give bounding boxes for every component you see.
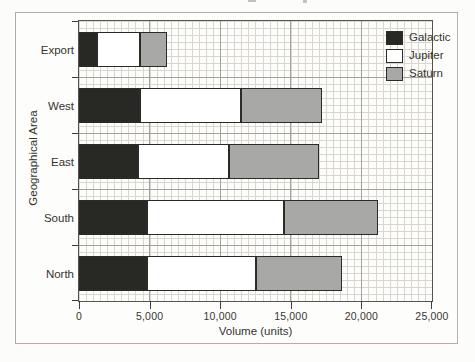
- legend-item-saturn: Saturn: [386, 66, 451, 81]
- x-axis-tick: [291, 301, 292, 309]
- legend-label: Jupiter: [409, 48, 444, 63]
- x-axis-tick: [150, 301, 151, 309]
- page: Geographical Area 05,00010,00015,00020,0…: [0, 0, 475, 362]
- major-gridline-vertical: [361, 21, 362, 301]
- bar-segment-galactic: [79, 88, 140, 123]
- x-axis-tick: [220, 301, 221, 309]
- legend-item-jupiter: Jupiter: [386, 48, 451, 63]
- bar-segment-galactic: [79, 144, 138, 179]
- y-category-label: South: [14, 210, 74, 226]
- y-category-label: West: [14, 98, 74, 114]
- y-category-label: Export: [14, 42, 74, 58]
- y-axis-tick: [72, 189, 78, 190]
- x-axis-tick: [431, 301, 432, 309]
- bar-segment-galactic: [79, 200, 147, 235]
- x-axis-title: Volume (units): [78, 325, 433, 337]
- y-axis-tick: [72, 133, 78, 134]
- bar-segment-saturn: [256, 256, 341, 291]
- legend-item-galactic: Galactic: [386, 30, 451, 45]
- legend-swatch-saturn: [386, 67, 403, 81]
- bar-segment-galactic: [79, 256, 147, 291]
- y-axis-tick: [72, 300, 78, 301]
- chart-plot-area: 05,00010,00015,00020,00025,000: [78, 20, 433, 302]
- x-tick-label: 0: [76, 310, 82, 322]
- x-tick-label: 5,000: [136, 310, 163, 322]
- x-tick-label: 25,000: [415, 310, 448, 322]
- bar-segment-saturn: [284, 200, 378, 235]
- legend-label: Galactic: [409, 30, 451, 45]
- legend-label: Saturn: [409, 66, 443, 81]
- y-axis-tick: [72, 77, 78, 78]
- legend: GalacticJupiterSaturn: [386, 30, 451, 84]
- x-axis-tick: [361, 301, 362, 309]
- x-tick-label: 15,000: [274, 310, 307, 322]
- y-axis-tick: [72, 245, 78, 246]
- bar-segment-jupiter: [147, 256, 256, 291]
- page-crop-artifact: [248, 0, 256, 2]
- major-gridline-horizontal: [79, 133, 432, 134]
- bar-segment-jupiter: [138, 144, 229, 179]
- x-axis-tick: [79, 301, 80, 309]
- major-gridline-horizontal: [79, 189, 432, 190]
- y-category-label: North: [14, 266, 74, 282]
- legend-swatch-galactic: [386, 31, 403, 45]
- y-axis-tick: [72, 21, 78, 22]
- major-gridline-horizontal: [79, 77, 432, 78]
- major-gridline-horizontal: [79, 245, 432, 246]
- page-crop-artifact: [303, 0, 307, 3]
- bar-segment-jupiter: [97, 32, 140, 67]
- bar-segment-jupiter: [140, 88, 241, 123]
- bar-segment-saturn: [140, 32, 167, 67]
- legend-swatch-jupiter: [386, 49, 403, 63]
- y-category-label: East: [14, 154, 74, 170]
- bar-segment-jupiter: [147, 200, 284, 235]
- bar-segment-saturn: [241, 88, 322, 123]
- bar-segment-saturn: [229, 144, 319, 179]
- x-tick-label: 10,000: [204, 310, 237, 322]
- x-tick-label: 20,000: [345, 310, 378, 322]
- bar-segment-galactic: [79, 32, 97, 67]
